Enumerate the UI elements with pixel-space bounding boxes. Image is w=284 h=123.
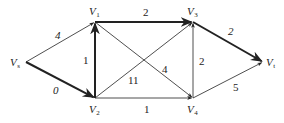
node-label-v1: V1 (89, 5, 100, 19)
network-flow-diagram: 40121141225 VsV1V2V3V4Vt (0, 0, 284, 123)
edge-v2-v3 (95, 23, 192, 98)
edge-weight-label: 2 (143, 6, 149, 18)
edge-weight-label: 1 (144, 103, 150, 115)
node-label-v2: V2 (89, 103, 100, 117)
edge-vs-v2 (26, 62, 94, 97)
node-label-v3: V3 (187, 5, 198, 19)
edge-weight-label: 2 (228, 25, 234, 37)
edges-group (26, 22, 262, 98)
edge-weight-label: 5 (233, 81, 239, 93)
edge-weight-label: 11 (128, 74, 139, 86)
edge-weight-label: 2 (199, 55, 205, 67)
node-label-vt: Vt (266, 56, 275, 70)
node-label-v4: V4 (187, 103, 198, 117)
node-label-vs: Vs (10, 56, 20, 70)
edge-v1-v4 (95, 22, 192, 97)
edge-weight-label: 0 (53, 84, 59, 96)
edge-weight-label: 4 (162, 63, 168, 75)
edge-v4-vt (193, 63, 262, 98)
edge-weight-label: 4 (55, 29, 61, 41)
edge-weight-label: 1 (83, 54, 89, 66)
